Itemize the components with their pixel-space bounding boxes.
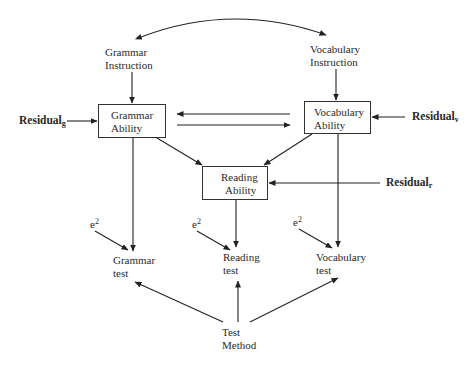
node-vocabulary-instruction: Vocabulary Instruction [310,43,360,69]
node-label-line2: Instruction [105,59,153,72]
node-grammar-test: Grammar test [113,254,155,280]
node-label-line2: test [223,264,260,277]
residual-base: Residual [386,176,429,188]
edge-e2-reading [197,231,230,250]
node-label-line2: Ability [314,119,370,132]
edge-e2-vocabulary [299,229,332,248]
error-reading-label: e2 [192,215,201,231]
node-vocabulary-ability: Vocabulary Ability [304,101,371,134]
edge-method-to-grammar-test [135,282,223,322]
node-label-line1: Vocabulary [316,251,366,264]
node-vocabulary-test: Vocabulary test [316,251,366,277]
residual-g-label: Residualg [19,114,66,130]
error-superscript: 2 [197,217,201,226]
node-label-line2: Method [222,339,256,352]
node-label-line2: test [316,264,366,277]
node-label-line1: Vocabulary [314,106,370,119]
node-label-line2: Ability [111,122,165,135]
node-label-line1: Grammar [105,46,153,59]
node-label-line2: Ability [221,184,267,197]
node-label-line1: Test [222,326,256,339]
node-label-line1: Grammar [113,254,155,267]
node-reading-test: Reading test [223,251,260,277]
residual-r-label: Residualr [386,176,432,192]
residual-base: Residual [19,114,62,126]
error-superscript: 2 [95,217,99,226]
edge-vocabulary-to-reading-ability [264,134,312,165]
edge-method-to-vocabulary-test [250,278,338,322]
node-label-line1: Vocabulary [310,43,360,56]
edge-e2-grammar [95,231,128,250]
node-grammar-instruction: Grammar Instruction [105,46,153,72]
node-grammar-ability: Grammar Ability [98,104,166,138]
node-label-line1: Grammar [111,109,165,122]
residual-v-label: Residualv [412,110,459,126]
node-label-line2: test [113,267,155,280]
node-label-line1: Reading [223,251,260,264]
residual-subscript: v [455,115,459,124]
residual-base: Residual [412,110,455,122]
edge-grammar-to-reading-ability [157,138,202,165]
error-superscript: 2 [298,215,302,224]
residual-subscript: r [429,181,433,190]
node-label-line1: Reading [221,171,267,184]
node-label-line2: Instruction [310,56,360,69]
edge-instruction-correlation [141,19,326,37]
residual-subscript: g [62,119,66,128]
error-vocabulary-label: e2 [293,213,302,229]
node-test-method: Test Method [222,326,256,352]
error-grammar-label: e2 [90,215,99,231]
node-reading-ability: Reading Ability [202,166,268,200]
